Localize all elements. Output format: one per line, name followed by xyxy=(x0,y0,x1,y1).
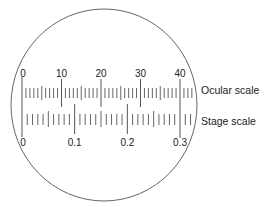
stage-tick-label: 0 xyxy=(20,137,26,148)
ocular-scale-label: Ocular scale xyxy=(201,84,260,96)
ocular-tick-label: 30 xyxy=(135,68,147,79)
stage-tick-label: 0.1 xyxy=(68,137,82,148)
ocular-tick-label: 40 xyxy=(174,68,186,79)
stage-scale-ticks xyxy=(27,104,190,134)
ocular-scale-tick-labels: 010203040 xyxy=(20,68,186,79)
ocular-scale-ticks xyxy=(22,77,192,138)
stage-scale-label: Stage scale xyxy=(201,115,256,127)
stage-tick-label: 0.3 xyxy=(173,137,187,148)
micrometer-diagram: 010203040 00.10.20.3 Ocular scale Stage … xyxy=(0,0,265,206)
stage-tick-label: 0.2 xyxy=(120,137,134,148)
ocular-tick-label: 20 xyxy=(95,68,107,79)
field-of-view-circle xyxy=(11,9,197,201)
ocular-tick-label: 10 xyxy=(56,68,68,79)
stage-scale-tick-labels: 00.10.20.3 xyxy=(20,137,187,148)
ocular-tick-label: 0 xyxy=(20,68,26,79)
